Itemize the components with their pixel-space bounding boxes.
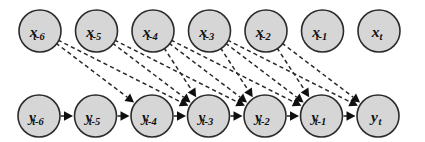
node-subscript-x_t-6: t-6 bbox=[33, 31, 45, 42]
arrowhead-x_t-4-to-y_t-2 bbox=[238, 94, 248, 103]
node-subscript-y_t-4: t-4 bbox=[145, 116, 157, 127]
node-y_t[interactable]: yt bbox=[357, 95, 399, 137]
cross-edge-x_t-4-to-y_t-3 bbox=[164, 48, 192, 90]
cross-edge-x_t-3-to-y_t-2 bbox=[220, 48, 248, 90]
node-subscript-x_t-2: t-2 bbox=[259, 31, 271, 42]
cross-edge-x_t-2-to-y_t-1 bbox=[277, 48, 305, 90]
node-y_t-4[interactable]: yt-4 bbox=[131, 95, 173, 137]
arrowhead-x_t-5-to-y_t-3 bbox=[181, 94, 191, 103]
arrowhead-y_t-4-to-y_t-3 bbox=[177, 111, 186, 121]
arrowhead-y_t-3-to-y_t-2 bbox=[234, 111, 243, 121]
arrowhead-y_t-1-to-y_t bbox=[347, 111, 356, 121]
node-layer: xt-6xt-5xt-4xt-3xt-2xt-1xtyt-6yt-5yt-4yt… bbox=[18, 10, 400, 137]
node-subscript-x_t-3: t-3 bbox=[203, 31, 215, 42]
graphical-model-figure: xt-6xt-5xt-4xt-3xt-2xt-1xtyt-6yt-5yt-4yt… bbox=[0, 0, 425, 142]
node-label-y_t: y bbox=[369, 108, 378, 125]
node-y_t-2[interactable]: yt-2 bbox=[244, 95, 286, 137]
node-subscript-y_t-5: t-5 bbox=[89, 116, 101, 127]
arrowhead-y_t-6-to-y_t-5 bbox=[64, 111, 73, 121]
arrowhead-x_t-3-to-y_t-2 bbox=[244, 88, 252, 98]
node-x_t-3[interactable]: xt-3 bbox=[189, 10, 231, 52]
node-subscript-y_t-3: t-3 bbox=[202, 116, 214, 127]
node-x_t[interactable]: xt bbox=[358, 10, 400, 52]
arrowhead-y_t-5-to-y_t-4 bbox=[121, 111, 130, 121]
node-subscript-x_t-1: t-1 bbox=[316, 31, 328, 42]
arrowhead-y_t-2-to-y_t-1 bbox=[290, 111, 299, 121]
arrowhead-x_t-2-to-y_t bbox=[351, 94, 361, 103]
node-x_t-2[interactable]: xt-2 bbox=[245, 10, 287, 52]
node-subscript-y_t-2: t-2 bbox=[258, 116, 270, 127]
node-y_t-5[interactable]: yt-5 bbox=[75, 95, 117, 137]
node-x_t-6[interactable]: xt-6 bbox=[19, 10, 61, 52]
node-y_t-6[interactable]: yt-6 bbox=[18, 95, 60, 137]
node-subscript-x_t-5: t-5 bbox=[90, 31, 102, 42]
node-subscript-x_t-4: t-4 bbox=[146, 31, 158, 42]
arrowhead-x_t-6-to-y_t-4 bbox=[125, 94, 135, 103]
node-x_t-4[interactable]: xt-4 bbox=[132, 10, 174, 52]
arrowhead-x_t-4-to-y_t-3 bbox=[188, 88, 196, 98]
arrowhead-x_t-3-to-y_t-1 bbox=[294, 94, 304, 103]
node-x_t-1[interactable]: xt-1 bbox=[302, 10, 344, 52]
node-x_t-5[interactable]: xt-5 bbox=[76, 10, 118, 52]
graph-canvas: xt-6xt-5xt-4xt-3xt-2xt-1xtyt-6yt-5yt-4yt… bbox=[0, 0, 425, 142]
arrowhead-x_t-2-to-y_t-1 bbox=[301, 88, 309, 98]
node-subscript-y_t-6: t-6 bbox=[32, 116, 44, 127]
node-y_t-3[interactable]: yt-3 bbox=[188, 95, 230, 137]
node-y_t-1[interactable]: yt-1 bbox=[301, 95, 343, 137]
node-label-x_t: x bbox=[371, 23, 380, 40]
node-subscript-y_t-1: t-1 bbox=[315, 116, 327, 127]
